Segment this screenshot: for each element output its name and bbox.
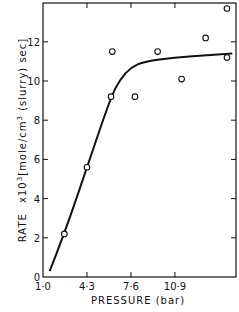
y-tick-label: 6: [34, 154, 40, 165]
data-point-circle: [224, 55, 230, 61]
y-title-mult: x10: [17, 181, 28, 203]
y-tick-label: 12: [27, 37, 40, 48]
y-tick-label: 2: [34, 233, 40, 244]
y-tick-label: 0: [34, 272, 40, 283]
data-point-circle: [110, 49, 116, 55]
fit-curve: [50, 54, 233, 272]
data-point-circle: [108, 94, 114, 100]
chart: 1·04·37·610·9024681012 PRESSURE (bar) RA…: [0, 0, 239, 312]
y-tick-label: 10: [27, 76, 40, 87]
plot-frame: [43, 3, 236, 277]
data-points: [62, 6, 230, 237]
data-point-circle: [62, 231, 68, 237]
y-title-units-tail: (slurry) sec]: [17, 38, 28, 115]
y-tick-label: 8: [34, 115, 40, 126]
data-point-circle: [84, 164, 90, 170]
y-title-rate: RATE: [17, 213, 28, 242]
data-point-circle: [155, 49, 161, 55]
x-tick-label: 10·9: [164, 281, 186, 292]
x-axis-title: PRESSURE (bar): [91, 295, 185, 306]
y-title-units: [mole/cm: [17, 121, 28, 176]
svg-text:RATE x103[mole/cm3 (slur: RATE x103[mole/cm3 (slurry) sec]: [16, 38, 28, 242]
y-tick-label: 4: [34, 194, 40, 205]
data-point-circle: [224, 6, 230, 12]
x-tick-label: 4·3: [79, 281, 95, 292]
data-point-circle: [132, 94, 138, 100]
data-point-circle: [179, 76, 185, 82]
data-point-circle: [203, 35, 209, 41]
y-axis-title: RATE x103[mole/cm3 (slurry) sec]: [16, 38, 28, 242]
x-tick-label: 7·6: [123, 281, 139, 292]
